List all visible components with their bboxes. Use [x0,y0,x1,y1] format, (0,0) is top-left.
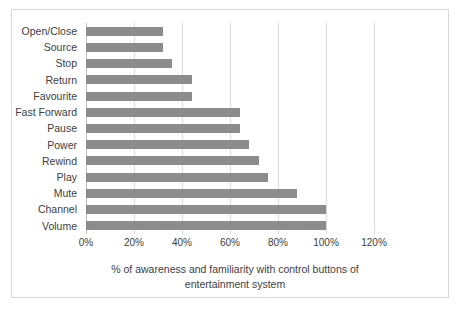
bar-row [86,218,374,234]
bar-row [86,72,374,88]
y-axis-label: Rewind [12,153,82,169]
bar [86,205,326,214]
y-axis-label: Volume [12,218,82,234]
x-axis-tick-label: 60% [220,238,240,248]
bar-row [86,23,374,39]
bar [86,59,172,68]
y-axis-label: Favourite [12,88,82,104]
x-axis-tick-label: 120% [361,238,387,248]
bar [86,156,259,165]
x-axis-title-line-1: % of awareness and familiarity with cont… [46,262,424,277]
bar-row [86,185,374,201]
y-axis-label: Mute [12,185,82,201]
bar [86,140,249,149]
bar-row [86,137,374,153]
bar-row [86,169,374,185]
bar-row [86,39,374,55]
x-axis-tick-label: 100% [313,238,339,248]
bar-series [86,23,374,234]
y-axis-label: Channel [12,202,82,218]
y-axis-label: Fast Forward [12,104,82,120]
bar-row [86,88,374,104]
x-axis-title: % of awareness and familiarity with cont… [46,262,424,292]
bar [86,92,192,101]
bar [86,75,192,84]
y-axis-label: Stop [12,55,82,71]
bar-row [86,202,374,218]
chart-container: Open/CloseSourceStopReturnFavouriteFast … [11,9,449,298]
y-axis-label: Pause [12,120,82,136]
bar [86,173,268,182]
y-axis-label: Open/Close [12,23,82,39]
bar [86,43,163,52]
x-axis-tick-label: 40% [172,238,192,248]
y-axis-label: Play [12,169,82,185]
bar-row [86,153,374,169]
bar [86,124,240,133]
y-axis-category-labels: Open/CloseSourceStopReturnFavouriteFast … [12,23,82,234]
plot-wrapper: Open/CloseSourceStopReturnFavouriteFast … [12,10,448,297]
bar-row [86,55,374,71]
bar-row [86,120,374,136]
bar [86,221,326,230]
x-axis-tick-labels: 0%20%40%60%80%100%120% [86,238,374,252]
x-axis-tick-label: 80% [268,238,288,248]
x-axis-tick-label: 0% [79,238,93,248]
bar [86,108,240,117]
y-axis-label: Power [12,137,82,153]
gridline [374,23,375,234]
x-axis-title-line-2: entertainment system [46,277,424,292]
bar [86,27,163,36]
y-axis-label: Return [12,72,82,88]
bar-row [86,104,374,120]
bar [86,189,297,198]
plot-area [86,23,374,234]
x-axis-tick-label: 20% [124,238,144,248]
y-axis-label: Source [12,39,82,55]
